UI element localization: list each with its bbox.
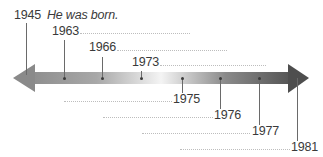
connector-1976 (220, 78, 221, 109)
year-label-1975: 1975 (173, 92, 200, 106)
tick-1975 (181, 77, 184, 80)
connector-1977 (259, 78, 260, 125)
tick-1976 (219, 77, 222, 80)
year-label-1981: 1981 (291, 140, 318, 154)
note-line-1963 (80, 33, 190, 34)
connector-1945 (26, 23, 27, 75)
note-line-1966 (117, 50, 227, 51)
connector-1981 (297, 78, 298, 141)
year-label-1977: 1977 (252, 124, 279, 138)
connector-1975 (182, 78, 183, 93)
year-label-1973: 1973 (132, 55, 159, 69)
note-line-1981 (180, 149, 290, 150)
tick-1977 (258, 77, 261, 80)
note-line-1977 (142, 133, 250, 134)
note-line-1973 (160, 65, 266, 66)
event-note-1945: He was born. (47, 8, 118, 22)
connector-1966 (102, 57, 103, 77)
note-line-1976 (103, 117, 213, 118)
year-label-1945: 1945 (14, 8, 41, 22)
left-arrowhead-icon (13, 64, 35, 92)
connector-1963 (64, 40, 65, 77)
note-line-1975 (64, 101, 172, 102)
right-arrowhead-icon (288, 64, 309, 93)
tick-1966 (101, 77, 104, 80)
year-label-1966: 1966 (89, 40, 116, 54)
arrow-shaft (32, 72, 290, 84)
tick-1963 (63, 77, 66, 80)
tick-1973 (140, 77, 143, 80)
year-label-1976: 1976 (214, 108, 241, 122)
year-label-1963: 1963 (52, 24, 79, 38)
